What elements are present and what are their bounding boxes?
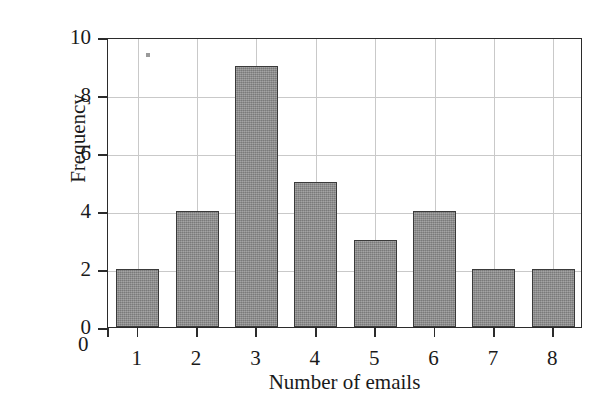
x-tick-mark	[255, 328, 257, 337]
x-tick-label: 2	[176, 348, 216, 369]
x-tick-label: 7	[473, 348, 513, 369]
y-tick-mark	[98, 96, 107, 98]
x-tick-label: 8	[532, 348, 572, 369]
x-tick-mark	[493, 328, 495, 337]
plot-area	[107, 38, 582, 328]
scan-artifacts	[108, 39, 581, 327]
x-tick-label: 5	[354, 348, 394, 369]
y-axis-label: Frequency	[68, 59, 89, 219]
x-tick-label: 1	[117, 348, 157, 369]
y-tick-mark	[98, 38, 107, 40]
x-tick-label: 6	[414, 348, 454, 369]
y-tick-label: 10	[43, 27, 91, 48]
y-tick-mark	[98, 328, 107, 330]
y-tick-label: 2	[43, 259, 91, 280]
x-tick-mark	[315, 328, 317, 337]
y-tick-mark	[98, 270, 107, 272]
bar-chart-figure: 0246810 12345678 Frequency Number of ema…	[0, 0, 613, 412]
x-tick-mark	[374, 328, 376, 337]
x-tick-mark	[196, 328, 198, 337]
origin-label: 0	[78, 334, 89, 355]
x-axis-label: Number of emails	[107, 372, 582, 393]
x-tick-label: 3	[235, 348, 275, 369]
x-tick-mark	[137, 328, 139, 337]
x-tick-mark	[552, 328, 554, 337]
y-tick-mark	[98, 212, 107, 214]
x-tick-mark	[434, 328, 436, 337]
x-tick-label: 4	[295, 348, 335, 369]
y-tick-mark	[98, 154, 107, 156]
speckle-artifact	[146, 53, 150, 57]
x-axis-origin-tick	[107, 328, 109, 337]
